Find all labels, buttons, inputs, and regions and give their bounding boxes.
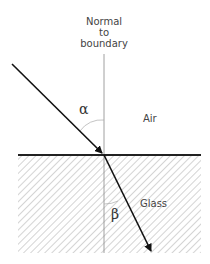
- normal-label-line2: to: [74, 27, 134, 38]
- normal-label: Normal to boundary: [74, 16, 134, 49]
- alpha-arc: [80, 120, 104, 131]
- air-label: Air: [143, 113, 157, 124]
- alpha-label: α: [79, 101, 88, 117]
- glass-label: Glass: [140, 198, 167, 209]
- beta-label: β: [111, 206, 119, 222]
- normal-label-line1: Normal: [74, 16, 134, 27]
- incident-ray: [12, 64, 102, 153]
- normal-label-line3: boundary: [74, 38, 134, 49]
- glass-region: [18, 156, 201, 253]
